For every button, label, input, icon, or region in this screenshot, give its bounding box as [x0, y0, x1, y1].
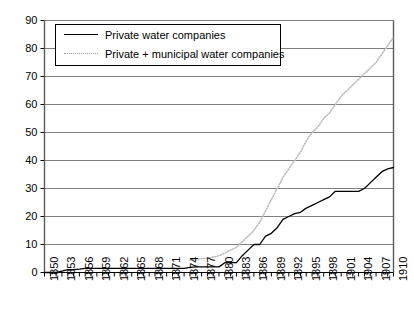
x-tick-label: 1886 [258, 256, 269, 280]
x-tick-label: 1853 [66, 256, 77, 280]
legend-label-private-municipal: Private + municipal water companies [105, 48, 284, 60]
x-tick-label: 1892 [293, 256, 304, 280]
x-tick-label: 1871 [171, 256, 182, 280]
y-tick-label: 90 [25, 15, 37, 26]
y-tick-label: 60 [25, 99, 37, 110]
x-tick-label: 1910 [398, 256, 409, 280]
x-tick-label: 1895 [311, 256, 322, 280]
chart-legend: Private water companies Private + munici… [55, 24, 281, 66]
x-tick-label: 1904 [363, 256, 374, 280]
series-line-0 [45, 168, 394, 273]
data-series [45, 37, 394, 272]
x-tick-label: 1862 [119, 256, 130, 280]
y-tick-label: 20 [25, 211, 37, 222]
dotted-line-swatch-icon [64, 49, 98, 59]
x-tick-label: 1889 [276, 256, 287, 280]
legend-item-private-municipal: Private + municipal water companies [56, 44, 280, 63]
y-tick-label: 30 [25, 183, 37, 194]
x-tick-label: 1880 [224, 256, 235, 280]
x-tick-label: 1859 [101, 256, 112, 280]
x-tick-label: 1868 [154, 256, 165, 280]
legend-label-private: Private water companies [105, 29, 225, 41]
x-tick-label: 1850 [49, 256, 60, 280]
x-tick-label: 1883 [241, 256, 252, 280]
x-tick-label: 1865 [136, 256, 147, 280]
solid-line-swatch-icon [64, 30, 98, 40]
x-tick-label: 1907 [381, 256, 392, 280]
x-tick-label: 1901 [346, 256, 357, 280]
x-tick-label: 1856 [84, 256, 95, 280]
series-line-1 [190, 37, 394, 260]
y-tick-label: 80 [25, 43, 37, 54]
x-tick-label: 1898 [328, 256, 339, 280]
y-tick-label: 70 [25, 71, 37, 82]
legend-item-private: Private water companies [56, 25, 280, 44]
y-tick-label: 10 [25, 239, 37, 250]
x-tick-label: 1874 [189, 256, 200, 280]
y-tick-label: 50 [25, 127, 37, 138]
line-chart: 0102030405060708090 18501853185618591862… [0, 0, 414, 329]
y-tick-label: 40 [25, 155, 37, 166]
y-tick-label: 0 [31, 267, 37, 278]
x-tick-label: 1877 [206, 256, 217, 280]
